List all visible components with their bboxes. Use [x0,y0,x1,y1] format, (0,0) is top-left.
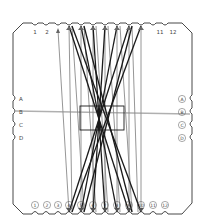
bottom-label-10: 10 [138,203,144,208]
bottom-label-3: 3 [57,203,60,208]
top-label-1: 1 [33,29,37,35]
left-label-c: C [19,122,23,128]
top-label-2: 2 [45,29,49,35]
left-label-d: D [19,135,23,141]
bottom-label-6: 6 [92,203,95,208]
bottom-label-7: 7 [104,203,107,208]
bottom-label-5: 5 [80,203,83,208]
bottom-label-2: 2 [46,203,49,208]
card-outline [13,23,192,214]
loom-card-diagram: 1 2 11 12 1 2 3 4 5 6 7 8 9 10 11 12 A B… [0,0,210,223]
right-label-d: D [180,136,184,141]
left-label-b: B [19,109,23,115]
bottom-label-12: 12 [162,203,168,208]
bottom-label-9: 9 [128,203,131,208]
left-label-a: A [19,96,23,102]
top-label-12: 12 [170,29,177,35]
bottom-label-8: 8 [116,203,119,208]
bottom-label-11: 11 [150,203,156,208]
right-label-b: B [180,110,183,115]
bottom-label-1: 1 [34,203,37,208]
bottom-label-4: 4 [68,203,71,208]
right-label-c: C [180,123,183,128]
top-label-11: 11 [157,29,164,35]
